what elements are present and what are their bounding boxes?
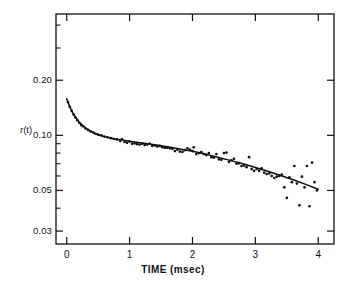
x-tick-label: 2 (172, 249, 212, 260)
y-tick-label: 0.03 (16, 225, 52, 236)
figure-canvas: · 0.200.100.050.03 01234 TIME (msec) r(t… (0, 0, 346, 290)
plot-frame (56, 14, 334, 244)
data-points (67, 101, 319, 208)
y-tick-label: 0.20 (16, 74, 52, 85)
x-axis-title: TIME (msec) (0, 264, 346, 275)
y-axis-title: r(t) (20, 124, 32, 135)
x-tick-label: 0 (47, 249, 87, 260)
x-tick-label: 1 (110, 249, 150, 260)
x-tick-label: 4 (298, 249, 338, 260)
x-tick-label: 3 (235, 249, 275, 260)
y-tick-label: 0.05 (16, 184, 52, 195)
axis-ticks (56, 14, 334, 244)
chart-plot-area (0, 0, 346, 290)
